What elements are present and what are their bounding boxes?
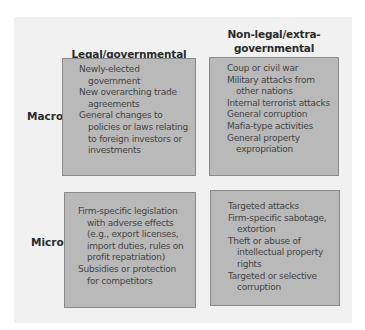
cell-micro-nonlegal: Targeted attacks Firm-specific sabotage,… bbox=[210, 190, 340, 306]
row-header-micro: Micro bbox=[31, 236, 64, 248]
list-item: General property expropriation bbox=[227, 133, 332, 156]
list-item: Targeted attacks bbox=[228, 201, 333, 213]
list-item: Firm-specific legislation with adverse e… bbox=[78, 206, 189, 264]
cell-micro-legal: Firm-specific legislation with adverse e… bbox=[64, 192, 196, 308]
list-item: Firm-specific sabotage, extortion bbox=[228, 213, 333, 236]
column-header-nonlegal-line2: governmental bbox=[209, 41, 339, 55]
list-item: Newly-elected government bbox=[79, 64, 189, 87]
list-item: General changes to policies or laws rela… bbox=[79, 110, 189, 156]
list-item: Military attacks from other nations bbox=[227, 75, 332, 98]
list-item: Coup or civil war bbox=[227, 63, 332, 75]
cell-macro-legal: Newly-elected government New overarching… bbox=[62, 58, 196, 176]
list-item: New overarching trade agreements bbox=[79, 87, 189, 110]
column-header-nonlegal-line1: Non-legal/extra- bbox=[209, 27, 339, 41]
cell-macro-nonlegal: Coup or civil war Military attacks from … bbox=[209, 57, 339, 176]
list-item: General corruption bbox=[227, 109, 332, 121]
list-item: Targeted or selective corruption bbox=[228, 271, 333, 294]
list-item: Theft or abuse of intellectual property … bbox=[228, 236, 333, 271]
row-header-macro: Macro bbox=[27, 110, 63, 122]
list-item: Internal terrorist attacks bbox=[227, 98, 332, 110]
column-header-nonlegal: Non-legal/extra- governmental bbox=[209, 27, 339, 55]
list-item: Mafia-type activities bbox=[227, 121, 332, 133]
list-item: Subsidies or protection for competitors bbox=[78, 264, 189, 287]
